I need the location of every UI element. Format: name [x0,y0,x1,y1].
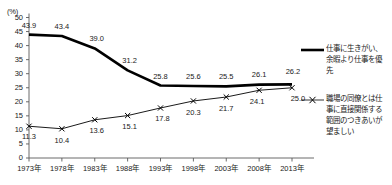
legend-key-thick-line [300,44,326,56]
y-axis-tick-label: 40 [6,42,23,50]
data-label-colleague-distance: 10.4 [47,137,77,145]
data-label-work-priority: 26.1 [244,71,274,79]
y-axis-tick-label: 35 [6,56,23,64]
line-chart: (%) 05101520253035404550 1973年1978年1983年… [0,0,392,185]
data-label-work-priority: 25.8 [146,73,176,81]
data-label-work-priority: 31.2 [115,57,145,65]
data-label-colleague-distance: 21.7 [211,105,241,113]
legend-label-work-priority: 仕事に生きがい、 余暇より仕事を優 先 [326,43,384,76]
data-label-work-priority: 43.9 [14,22,44,30]
y-axis-tick-label: 15 [6,112,23,120]
data-label-work-priority: 25.5 [211,73,241,81]
data-label-colleague-distance: 11.3 [14,133,44,141]
y-axis-tick-label: 50 [6,14,23,22]
y-axis-tick-label: 20 [6,98,23,106]
y-axis-tick-label: 0 [6,154,23,162]
y-axis-tick-label: 30 [6,70,23,78]
data-label-work-priority: 43.4 [47,23,77,31]
data-label-colleague-distance: 24.1 [242,98,272,106]
legend-label-colleague-distance: 職場の同僚とは仕 事に直接関係する 範囲のつきあいが 望ましい [326,93,384,137]
legend-entry-work-priority[interactable]: 仕事に生きがい、 余暇より仕事を優 先 [300,44,384,76]
data-label-work-priority: 39.0 [82,35,112,43]
legend-key-x-marker-line [300,94,326,106]
chart-title [45,0,345,3]
data-label-colleague-distance: 17.8 [148,115,178,123]
data-label-colleague-distance: 20.3 [178,109,208,117]
data-label-work-priority: 25.6 [178,73,208,81]
data-label-colleague-distance: 13.6 [82,127,112,135]
y-axis-tick-label: 25 [6,84,23,92]
legend-entry-colleague-distance[interactable]: 職場の同僚とは仕 事に直接関係する 範囲のつきあいが 望ましい [300,94,384,137]
x-axis-tick-label: 2013年 [272,164,312,173]
data-label-colleague-distance: 15.1 [115,123,145,131]
